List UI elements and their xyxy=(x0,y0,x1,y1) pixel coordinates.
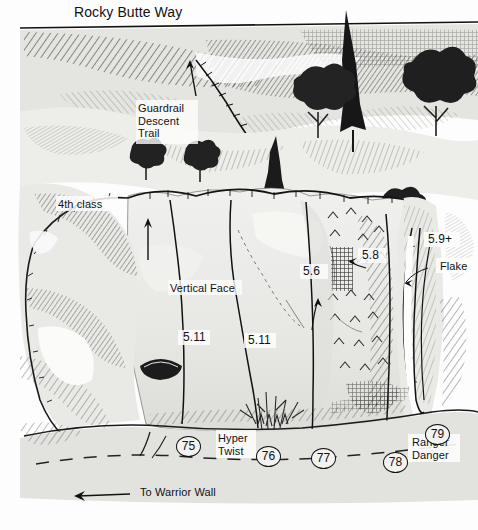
route-marker-79[interactable]: 79 xyxy=(425,424,450,445)
climbing-topo-illustration: Rocky Butte Way Guardrail Descent Trail … xyxy=(0,0,478,530)
road-label: Rocky Butte Way xyxy=(74,6,182,19)
hyper-twist-label: Hyper Twist xyxy=(218,432,248,457)
vertical-face-label: Vertical Face xyxy=(170,282,235,295)
roof-overhang-icon xyxy=(331,247,353,291)
grade-label-5-6: 5.6 xyxy=(303,265,320,278)
route-marker-77[interactable]: 77 xyxy=(311,448,336,469)
grade-label-5-9-plus: 5.9+ xyxy=(428,233,452,246)
route-marker-76[interactable]: 76 xyxy=(256,446,281,467)
grade-label-5-11-center: 5.11 xyxy=(248,334,271,347)
route-marker-75[interactable]: 75 xyxy=(176,436,201,457)
to-warrior-wall-label: To Warrior Wall xyxy=(140,486,216,499)
route-marker-78[interactable]: 78 xyxy=(383,452,408,473)
fourth-class-label: 4th class xyxy=(58,198,102,211)
grade-label-5-8: 5.8 xyxy=(362,249,379,262)
flake-label: Flake xyxy=(440,260,467,273)
guardrail-descent-trail-label: Guardrail Descent Trail xyxy=(138,102,184,140)
grade-label-5-11-left: 5.11 xyxy=(183,331,206,344)
